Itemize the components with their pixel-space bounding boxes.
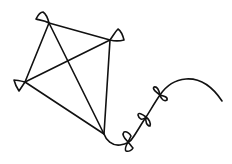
- kite-corner-bow-left: [14, 80, 25, 91]
- kite-corner-bow-top: [36, 12, 49, 23]
- kite-frame: [25, 23, 110, 134]
- kite-tail: [104, 79, 222, 145]
- kite-drawing: [0, 0, 232, 164]
- kite-corner-bow-right: [110, 29, 124, 41]
- kite-illustration: [0, 0, 232, 164]
- tail-bow-1: [123, 132, 133, 151]
